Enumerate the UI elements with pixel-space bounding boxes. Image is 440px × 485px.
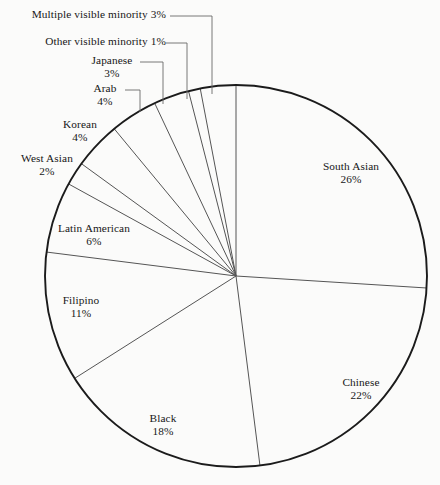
label-filipino-name: Filipino (63, 294, 100, 306)
label-west-asian-name: West Asian (21, 152, 73, 164)
leader-japanese (140, 62, 163, 104)
leader-arab (125, 90, 140, 112)
label-filipino-value: 11% (52, 307, 110, 320)
label-japanese: Japanese 3% (84, 54, 140, 81)
label-black-value: 18% (140, 425, 186, 438)
label-latin-american: Latin American 6% (48, 222, 140, 249)
label-chinese: Chinese 22% (333, 376, 389, 403)
label-black-name: Black (150, 412, 177, 424)
divider-south-asian-chinese (236, 276, 427, 288)
label-latin-american-name: Latin American (58, 222, 130, 234)
leader-multiple-visible-minority (170, 16, 212, 94)
divider-japanese-other (189, 91, 237, 276)
label-multiple-visible-minority-text: Multiple visible minority 3% (32, 8, 166, 20)
label-south-asian-name: South Asian (323, 160, 379, 172)
label-arab: Arab 4% (84, 82, 126, 109)
label-west-asian: West Asian 2% (10, 152, 84, 179)
label-arab-name: Arab (94, 82, 117, 94)
label-south-asian: South Asian 26% (310, 160, 392, 187)
label-chinese-value: 22% (333, 389, 389, 402)
label-other-visible-minority-text: Other visible minority 1% (45, 35, 166, 47)
label-arab-value: 4% (84, 95, 126, 108)
label-latin-american-value: 6% (48, 235, 140, 248)
divider-other-multiple (200, 88, 236, 276)
label-japanese-value: 3% (84, 67, 140, 80)
divider-chinese-black (236, 276, 260, 465)
label-west-asian-value: 2% (10, 165, 84, 178)
label-multiple-visible-minority: Multiple visible minority 3% (4, 8, 166, 21)
divider-korean-arab (114, 129, 236, 276)
leader-other-visible-minority (166, 43, 187, 99)
pie-chart: Multiple visible minority 3% Other visib… (0, 0, 440, 485)
label-korean-name: Korean (63, 118, 97, 130)
label-japanese-name: Japanese (92, 54, 133, 66)
label-other-visible-minority: Other visible minority 1% (4, 35, 166, 48)
label-korean-value: 4% (52, 131, 108, 144)
divider-black-filipino (75, 276, 236, 378)
divider-arab-japanese (155, 103, 236, 276)
label-south-asian-value: 26% (310, 173, 392, 186)
label-filipino: Filipino 11% (52, 294, 110, 321)
label-korean: Korean 4% (52, 118, 108, 145)
label-chinese-name: Chinese (342, 376, 379, 388)
label-black: Black 18% (140, 412, 186, 439)
